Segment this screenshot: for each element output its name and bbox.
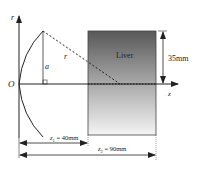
z1-dimension: z1 = 40mm — [20, 134, 88, 147]
radius-r-label: r — [64, 52, 68, 61]
liver-region: Liver — [88, 31, 156, 135]
r-axis: r — [11, 13, 19, 138]
r-axis-label: r — [11, 13, 15, 22]
origin-label: O — [8, 79, 15, 89]
z2-dimension: z2 = 90mm — [19, 135, 156, 160]
right-angle-icon — [43, 80, 47, 84]
diagram-canvas: Liver r z O a r 35mm z1 = 40mm — [0, 0, 198, 169]
height-dimension-label: 35mm — [168, 54, 189, 63]
z1-label: z1 = 40mm — [49, 134, 78, 143]
height-dimension: 35mm — [158, 31, 189, 83]
height-a-line: a — [43, 31, 49, 84]
z2-label: z2 = 90mm — [97, 145, 126, 154]
z-axis-label: z — [167, 90, 171, 98]
height-a-label: a — [45, 62, 49, 71]
liver-label: Liver — [116, 51, 134, 60]
